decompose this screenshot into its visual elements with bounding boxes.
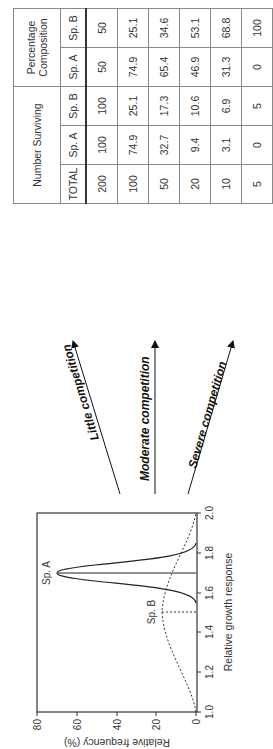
x-tick-label: 1.4: [204, 625, 215, 639]
table-cell: 20: [180, 165, 211, 204]
table-row: 5050100: [242, 9, 273, 204]
moderate-competition-label: Moderate competition: [138, 356, 152, 481]
table-cell: 46.9: [180, 48, 211, 87]
column-header: TOTAL: [61, 165, 87, 204]
table-cell: 6.9: [211, 87, 242, 126]
x-tick-label: 1.2: [204, 665, 215, 679]
x-tick-label: 1.6: [204, 586, 215, 600]
table-cell: 25.1: [118, 9, 149, 48]
x-tick-label: 1.8: [204, 546, 215, 560]
survival-table: Number Surviving PercentageComposition T…: [13, 8, 273, 204]
table-cell: 50: [86, 48, 118, 87]
y-axis-label: Relative frequency (%): [64, 737, 170, 749]
composition-header-line1: Percentage: [25, 21, 37, 75]
table-cell: 17.3: [149, 87, 180, 126]
table-cell: 100: [86, 126, 118, 165]
table-cell: 25.1: [118, 87, 149, 126]
table-cell: 32.7: [149, 126, 180, 165]
table-cell: 68.8: [211, 9, 242, 48]
table-cell: 10: [211, 165, 242, 204]
table-row: 209.410.646.953.1: [180, 9, 211, 204]
table-cell: 34.6: [149, 9, 180, 48]
column-header: Sp. A: [61, 126, 87, 165]
x-axis-label: Relative growth response: [222, 553, 234, 672]
table-row: 5032.717.365.434.6: [149, 9, 180, 204]
severe-competition-label: Severe competition: [185, 360, 229, 470]
x-tick-label: 1.0: [204, 705, 215, 719]
table-cell: 100: [86, 87, 118, 126]
table-cell: 74.9: [118, 126, 149, 165]
table-cell: 9.4: [180, 126, 211, 165]
little-competition-label: Little competition: [59, 342, 102, 442]
table-cell: 5: [242, 165, 273, 204]
table-cell: 74.9: [118, 48, 149, 87]
table-cell: 5: [242, 87, 273, 126]
table-row: 103.16.931.368.8: [211, 9, 242, 204]
table-cell: 31.3: [211, 48, 242, 87]
percentage-composition-header: PercentageComposition: [14, 9, 61, 87]
species-a-label: Sp. A: [41, 561, 52, 585]
y-tick-label: 80: [32, 719, 43, 731]
table-cell: 65.4: [149, 48, 180, 87]
column-header: Sp. B: [61, 9, 87, 48]
table-cell: 100: [118, 165, 149, 204]
y-tick-label: 0: [191, 719, 202, 725]
competition-arrows: Little competition Moderate competition …: [0, 309, 273, 509]
table-cell: 50: [86, 9, 118, 48]
table-group-header-row: Number Surviving PercentageComposition: [14, 9, 61, 204]
plot-frame: [37, 513, 197, 712]
composition-header-line2: Composition: [37, 18, 49, 76]
table-cell: 50: [149, 165, 180, 204]
y-tick-label: 60: [72, 719, 83, 731]
table-cell: 53.1: [180, 9, 211, 48]
frequency-chart: 0 20 40 60 80 1.0 1.2 1.4 1.6 1.8 2.0 Re…: [0, 489, 273, 749]
number-surviving-header: Number Surviving: [14, 87, 61, 204]
figure-canvas: 0 20 40 60 80 1.0 1.2 1.4 1.6 1.8 2.0 Re…: [0, 0, 273, 749]
table-cell: 10.6: [180, 87, 211, 126]
column-header: Sp. B: [61, 87, 87, 126]
y-tick-label: 40: [112, 719, 123, 731]
table-subheader-row: TOTAL Sp. A Sp. B Sp. A Sp. B: [61, 9, 87, 204]
table-row: 10074.925.174.925.1: [118, 9, 149, 204]
table-cell: 200: [86, 165, 118, 204]
table-cell: 0: [242, 126, 273, 165]
table-cell: 3.1: [211, 126, 242, 165]
species-b-label: Sp. B: [146, 599, 157, 624]
column-header: Sp. A: [61, 48, 87, 87]
table-cell: 0: [242, 48, 273, 87]
table-row: 2001001005050: [86, 9, 118, 204]
table-cell: 100: [242, 9, 273, 48]
y-tick-label: 20: [151, 719, 162, 731]
